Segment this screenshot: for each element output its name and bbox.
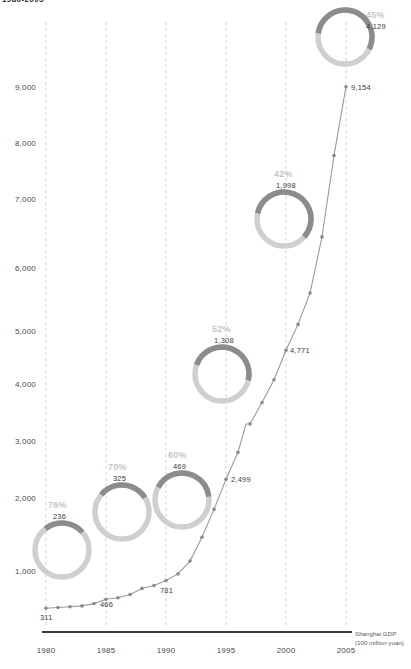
donut-value-1990: 469 <box>173 462 186 471</box>
y-tick-8000: 8,000 <box>0 139 36 148</box>
y-tick-1000: 1,000 <box>0 567 36 576</box>
donut-value-1985: 325 <box>113 474 126 483</box>
y-tick-5000: 5,000 <box>0 327 36 336</box>
y-tick-6000: 6,000 <box>0 264 36 273</box>
donut-value-2000: 1,998 <box>276 181 296 190</box>
donut-2000 <box>252 187 316 251</box>
donut-percent-1990: 60% <box>168 450 187 460</box>
point-label-1985: 466 <box>100 600 113 609</box>
point-label-2005: 9,154 <box>351 83 371 92</box>
axis-caption-line2: (100 million yuan) <box>355 639 404 648</box>
donut-value-2005: 4,129 <box>366 22 386 31</box>
point-label-1980: 311 <box>40 613 53 622</box>
donut-1995 <box>187 339 256 408</box>
y-tick-7000: 7,000 <box>0 195 36 204</box>
point-label-1995: 2,499 <box>231 475 251 484</box>
chart-canvas: 1980-2005 <box>0 0 411 669</box>
axis-caption: Shanghai GDP (100 million yuan) <box>355 630 404 648</box>
donut-1980 <box>24 512 100 588</box>
donut-value-1995: 1,308 <box>214 336 234 345</box>
vertical-guide-lines <box>46 22 346 628</box>
x-tick-1990: 1990 <box>146 646 186 655</box>
donut-percent-1995: 52% <box>212 324 231 334</box>
x-tick-2000: 2000 <box>266 646 306 655</box>
donut-percent-2005: 45% <box>366 10 385 20</box>
x-tick-1995: 1995 <box>206 646 246 655</box>
chart-plot-svg <box>0 0 411 669</box>
donut-percent-2000: 42% <box>274 169 293 179</box>
y-tick-2000: 2,000 <box>0 494 36 503</box>
x-tick-1985: 1985 <box>86 646 126 655</box>
donut-1985 <box>84 474 160 550</box>
point-label-2000: 4,771 <box>290 346 310 355</box>
donut-percent-1985: 70% <box>108 462 127 472</box>
donut-value-1980: 236 <box>53 512 66 521</box>
point-label-1990: 781 <box>160 586 173 595</box>
y-tick-9000: 9,000 <box>0 83 36 92</box>
y-tick-4000: 4,000 <box>0 380 36 389</box>
y-tick-3000: 3,000 <box>0 437 36 446</box>
axis-caption-line1: Shanghai GDP <box>355 630 404 639</box>
x-tick-1980: 1980 <box>26 646 66 655</box>
donut-percent-1980: 76% <box>48 500 67 510</box>
